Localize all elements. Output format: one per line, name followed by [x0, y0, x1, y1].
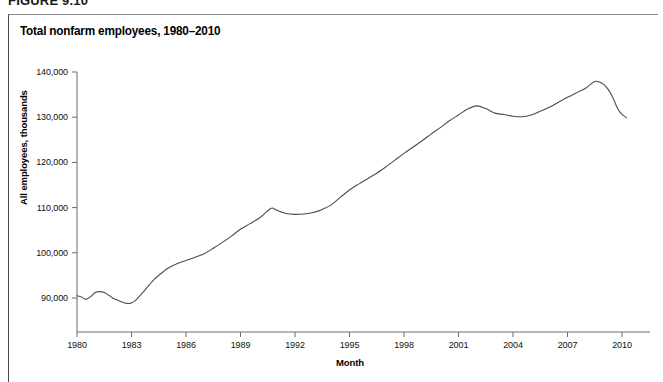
- y-axis-tick-label: 90,000: [41, 293, 68, 303]
- x-axis-tick-label: 1983: [122, 340, 142, 350]
- y-axis-title: All employees, thousands: [18, 90, 29, 205]
- x-axis-tick-label: 1986: [176, 340, 196, 350]
- x-axis-tick-label: 2010: [612, 340, 632, 350]
- x-axis-tick-label: 1980: [67, 340, 87, 350]
- x-axis-tick-label: 1998: [394, 340, 414, 350]
- x-axis-tick-label: 1992: [285, 340, 305, 350]
- data-series-line: [77, 81, 627, 303]
- y-axis-tick-label: 100,000: [36, 248, 68, 258]
- x-axis-title: Month: [336, 357, 364, 368]
- x-axis-tick-label: 2007: [558, 340, 578, 350]
- axis-group: [77, 72, 650, 332]
- y-axis-tick-label: 140,000: [36, 67, 68, 77]
- x-axis-tick-label: 1989: [231, 340, 251, 350]
- y-axis-tick-label: 110,000: [37, 203, 68, 213]
- x-axis-tick-label: 2004: [503, 340, 523, 350]
- y-axis-tick-label: 120,000: [36, 157, 68, 167]
- x-axis-tick-label: 2001: [449, 340, 469, 350]
- y-axis-tick-label: 130,000: [36, 112, 68, 122]
- x-axis-tick-label: 1995: [340, 340, 360, 350]
